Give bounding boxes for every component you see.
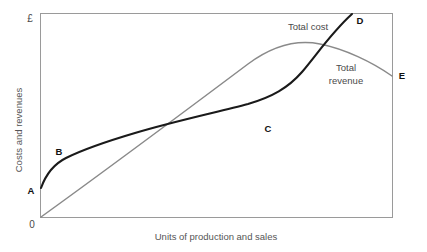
cost-revenue-chart: £ Costs and revenues 0 Units of producti… xyxy=(0,0,427,252)
total-cost-series-label: Total cost xyxy=(288,21,328,32)
total-revenue-series-label-line2: revenue xyxy=(329,75,363,86)
total-revenue-series-label-line1: Total xyxy=(336,62,356,73)
point-label-d: D xyxy=(357,15,364,26)
point-label-a: A xyxy=(28,185,35,196)
point-label-b: B xyxy=(56,146,63,157)
x-axis-title: Units of production and sales xyxy=(155,231,278,242)
plot-frame xyxy=(41,14,393,218)
point-label-c: C xyxy=(265,123,272,134)
chart-container: £ Costs and revenues 0 Units of producti… xyxy=(0,0,427,252)
point-label-e: E xyxy=(399,70,405,81)
y-axis-title: Costs and revenues xyxy=(13,88,24,173)
origin-label: 0 xyxy=(29,219,35,230)
y-axis-unit-label: £ xyxy=(27,13,33,24)
total-cost-curve xyxy=(41,14,352,188)
